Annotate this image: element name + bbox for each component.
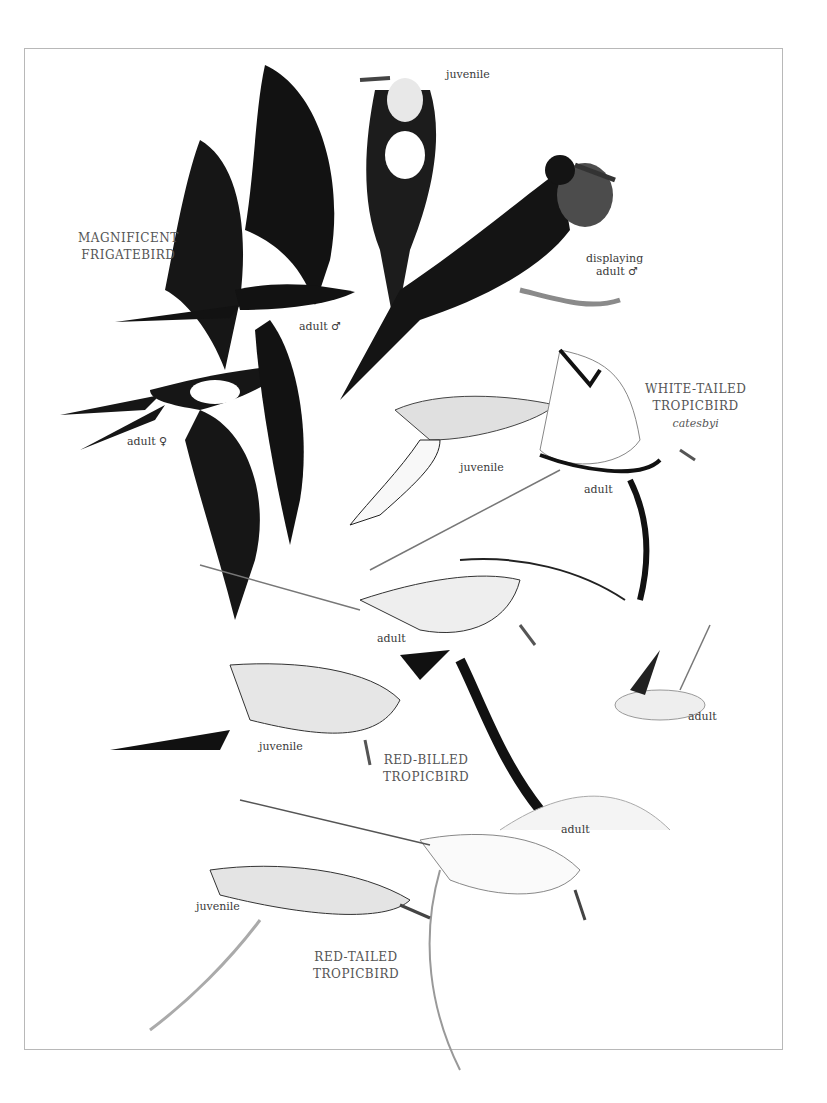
label-white-tailed-adult: adult [584,483,613,496]
label-red-billed-juvenile: juvenile [259,740,303,753]
species-white-tailed-tropicbird: WHITE-TAILED TROPICBIRD catesbyi [645,381,746,432]
label-red-tailed-adult: adult [561,823,590,836]
species-magnificent-frigatebird: MAGNIFICENT FRIGATEBIRD [78,230,179,264]
species-name-line1: RED-TAILED [313,949,399,966]
label-frigatebird-adult-female: adult ♀ [127,435,167,448]
species-name-line2: TROPICBIRD [313,966,399,983]
species-name-line2: FRIGATEBIRD [78,247,179,264]
label-frigatebird-displaying: displaying [586,252,643,265]
species-name-line1: WHITE-TAILED [645,381,746,398]
red-billed-tropicbird-adult-sitting [615,625,710,720]
species-name-line2: TROPICBIRD [383,769,469,786]
white-tailed-tropicbird-juvenile [350,396,555,525]
species-red-tailed-tropicbird: RED-TAILED TROPICBIRD [313,949,399,983]
label-frigatebird-displaying-sex: adult ♂ [596,265,638,278]
label-red-billed-adult: adult [377,632,406,645]
subspecies-name: catesbyi [645,415,746,432]
label-red-tailed-juvenile: juvenile [196,900,240,913]
species-red-billed-tropicbird: RED-BILLED TROPICBIRD [383,752,469,786]
species-name-line1: RED-BILLED [383,752,469,769]
label-white-tailed-juvenile: juvenile [460,461,504,474]
species-name-line1: MAGNIFICENT [78,230,179,247]
red-tailed-tropicbird-adult [240,796,670,1070]
bird-illustrations [0,0,827,1103]
species-name-line2: TROPICBIRD [645,398,746,415]
label-red-billed-adult-sitting: adult [688,710,717,723]
label-frigatebird-adult-male: adult ♂ [299,320,341,333]
label-frigatebird-juvenile: juvenile [446,68,490,81]
